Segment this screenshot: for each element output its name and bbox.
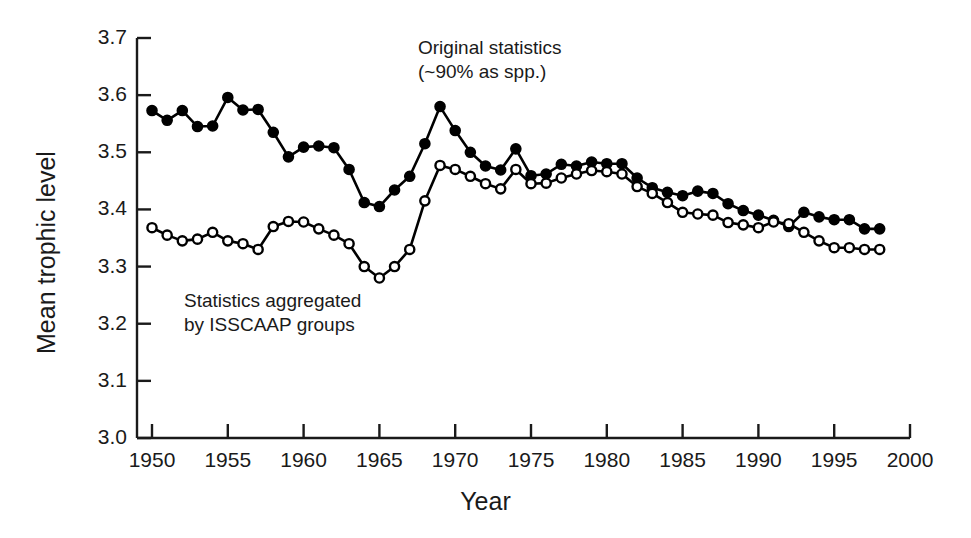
data-point	[208, 228, 217, 237]
data-point	[662, 187, 672, 197]
data-point	[814, 212, 824, 222]
annotation-isscaap-line2: by ISSCAAP groups	[184, 313, 361, 337]
data-point	[329, 143, 339, 153]
data-point	[420, 139, 430, 149]
y-tick-label: 3.3	[67, 254, 127, 278]
data-point	[860, 245, 869, 254]
x-tick-label: 1950	[112, 448, 192, 472]
data-point	[738, 206, 748, 216]
y-tick-label: 3.7	[67, 25, 127, 49]
x-tick-label: 1955	[188, 448, 268, 472]
x-tick-label: 2000	[870, 448, 950, 472]
y-tick-label: 3.4	[67, 196, 127, 220]
data-point	[283, 152, 293, 162]
data-point	[875, 224, 885, 234]
annotation-original-line2: (~90% as spp.)	[418, 60, 562, 84]
data-point	[284, 217, 293, 226]
y-tick-label: 3.5	[67, 139, 127, 163]
annotation-original-line1: Original statistics	[418, 36, 562, 60]
data-point	[208, 121, 218, 131]
y-tick-label: 3.0	[67, 425, 127, 449]
series-line	[152, 97, 880, 228]
data-point	[359, 198, 369, 208]
x-tick-label: 1985	[643, 448, 723, 472]
data-point	[163, 231, 172, 240]
data-point	[678, 191, 688, 201]
data-point	[739, 220, 748, 229]
data-point	[329, 231, 338, 240]
data-point	[147, 106, 157, 116]
data-point	[177, 106, 187, 116]
data-point	[223, 236, 232, 245]
data-series-layer	[147, 92, 885, 282]
chart-figure: Mean trophic level Year Original statist…	[0, 0, 971, 538]
data-point	[253, 104, 263, 114]
data-point	[269, 222, 278, 231]
data-point	[314, 224, 323, 233]
data-point	[481, 161, 491, 171]
data-point	[648, 189, 657, 198]
series-isscaap	[147, 161, 884, 283]
y-axis-label: Mean trophic level	[32, 123, 61, 383]
data-point	[769, 217, 778, 226]
x-tick-label: 1970	[415, 448, 495, 472]
data-point	[223, 92, 233, 102]
x-tick-label: 1995	[794, 448, 874, 472]
annotation-isscaap-statistics: Statistics aggregated by ISSCAAP groups	[184, 289, 361, 337]
data-point	[299, 217, 308, 226]
data-point	[754, 223, 763, 232]
data-point	[178, 236, 187, 245]
data-point	[663, 198, 672, 207]
data-point	[268, 127, 278, 137]
data-point	[844, 215, 854, 225]
data-point	[633, 182, 642, 191]
x-tick-label: 1980	[567, 448, 647, 472]
series-original	[147, 92, 885, 233]
data-point	[466, 172, 475, 181]
data-point	[162, 115, 172, 125]
data-point	[753, 210, 763, 220]
data-point	[830, 243, 839, 252]
y-tick-label: 3.1	[67, 368, 127, 392]
data-point	[193, 235, 202, 244]
annotation-original-statistics: Original statistics (~90% as spp.)	[418, 36, 562, 84]
data-point	[617, 169, 626, 178]
data-point	[360, 262, 369, 271]
data-point	[435, 102, 445, 112]
data-point	[375, 273, 384, 282]
data-point	[557, 173, 566, 182]
x-tick-label: 1990	[718, 448, 798, 472]
data-point	[374, 202, 384, 212]
y-tick-label: 3.2	[67, 311, 127, 335]
x-tick-label: 1975	[491, 448, 571, 472]
data-point	[496, 184, 505, 193]
data-point	[678, 208, 687, 217]
data-point	[405, 171, 415, 181]
data-point	[526, 179, 535, 188]
data-point	[481, 179, 490, 188]
data-point	[875, 245, 884, 254]
x-tick-label: 1960	[264, 448, 344, 472]
annotation-isscaap-line1: Statistics aggregated	[184, 289, 361, 313]
data-point	[405, 245, 414, 254]
data-point	[542, 179, 551, 188]
x-tick-label: 1965	[339, 448, 419, 472]
data-point	[238, 105, 248, 115]
data-point	[617, 159, 627, 169]
data-point	[572, 169, 581, 178]
data-point	[420, 196, 429, 205]
data-point	[496, 165, 506, 175]
data-point	[708, 188, 718, 198]
data-point	[451, 165, 460, 174]
data-point	[450, 126, 460, 136]
data-point	[799, 228, 808, 237]
data-point	[693, 209, 702, 218]
x-axis-label: Year	[0, 487, 971, 516]
data-point	[556, 159, 566, 169]
data-point	[238, 239, 247, 248]
data-point	[587, 166, 596, 175]
data-point	[435, 161, 444, 170]
data-point	[299, 142, 309, 152]
data-point	[845, 243, 854, 252]
data-point	[784, 219, 793, 228]
